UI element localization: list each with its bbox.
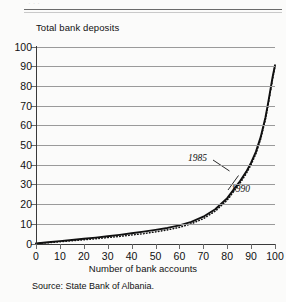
y-tick-label-40: 40	[2, 160, 32, 171]
y-tick-label-0: 0	[2, 239, 32, 250]
gridline-y-70	[36, 106, 275, 107]
series-line-1990	[36, 65, 275, 243]
plot-area: 0102030405060708090100010203040506070809…	[0, 0, 286, 302]
series-line-1985	[36, 66, 275, 243]
x-tick-label-100: 100	[260, 251, 286, 262]
x-tick-70	[203, 244, 204, 249]
gridline-y-50	[36, 145, 275, 146]
y-tick-label-20: 20	[2, 199, 32, 210]
source-note: Source: State Bank of Albania.	[32, 281, 154, 291]
figure-panel: · · · Total bank deposits 01020304050607…	[0, 0, 286, 302]
y-tick-label-50: 50	[2, 140, 32, 151]
y-tick-label-60: 60	[2, 120, 32, 131]
y-tick-label-30: 30	[2, 179, 32, 190]
gridline-y-90	[36, 66, 275, 67]
annotation-1985: 1985	[188, 153, 207, 163]
x-tick-100	[275, 244, 276, 249]
y-axis-line	[36, 46, 37, 244]
y-tick-label-100: 100	[2, 42, 32, 53]
x-tick-50	[156, 244, 157, 249]
gridline-y-100	[36, 47, 275, 48]
x-tick-80	[227, 244, 228, 249]
x-tick-40	[132, 244, 133, 249]
y-tick-label-10: 10	[2, 219, 32, 230]
x-tick-90	[251, 244, 252, 249]
x-tick-10	[60, 244, 61, 249]
gridline-y-80	[36, 86, 275, 87]
x-tick-0	[36, 244, 37, 249]
y-tick-label-90: 90	[2, 61, 32, 72]
x-tick-60	[179, 244, 180, 249]
x-tick-30	[108, 244, 109, 249]
x-tick-20	[84, 244, 85, 249]
gridline-y-40	[36, 165, 275, 166]
y-tick-label-70: 70	[2, 101, 32, 112]
annotation-1990: 1990	[231, 184, 250, 194]
gridline-y-20	[36, 204, 275, 205]
y-tick-label-80: 80	[2, 81, 32, 92]
x-axis-title: Number of bank accounts	[0, 263, 286, 274]
gridline-y-10	[36, 224, 275, 225]
gridline-y-60	[36, 125, 275, 126]
